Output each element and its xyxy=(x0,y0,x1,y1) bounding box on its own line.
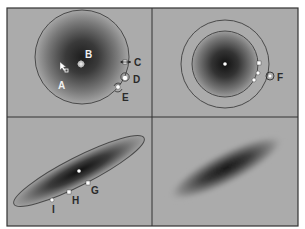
label-b: B xyxy=(85,49,92,60)
label-c: C xyxy=(134,57,141,68)
label-d: D xyxy=(133,74,140,85)
label-g: G xyxy=(91,185,99,196)
handle-square[interactable] xyxy=(257,61,261,65)
center-point-icon[interactable] xyxy=(77,169,81,173)
label-h: H xyxy=(72,195,79,206)
handle-dot[interactable] xyxy=(252,78,256,82)
figure: A B C D E xyxy=(0,0,305,229)
label-a: A xyxy=(58,80,65,91)
label-f: F xyxy=(277,72,283,83)
handle-i[interactable] xyxy=(50,198,54,202)
center-point-icon[interactable] xyxy=(223,62,227,66)
handle-dot[interactable] xyxy=(256,71,260,75)
label-e: E xyxy=(122,92,129,103)
label-i: I xyxy=(52,204,55,215)
handle-h[interactable] xyxy=(67,190,71,194)
handle-g[interactable] xyxy=(86,181,90,185)
